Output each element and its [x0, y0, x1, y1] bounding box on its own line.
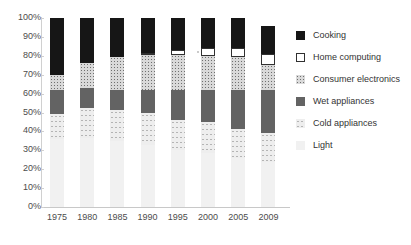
- legend-swatch-wetappliances-icon: [296, 97, 305, 106]
- legend-item-homecomputing: Home computing: [296, 46, 400, 68]
- y-axis-tick-label: 0%: [5, 202, 41, 211]
- bar-segment-light: [261, 162, 275, 207]
- bar-segment-cooking: [231, 18, 245, 48]
- bar-segment-homecomputing: [141, 53, 155, 55]
- bar-segment-wetappliances: [231, 90, 245, 129]
- bar-segment-cooking: [141, 18, 155, 53]
- bar-segment-light: [110, 141, 124, 207]
- legend-label: Consumer electronics: [313, 74, 400, 84]
- legend-item-light: Light: [296, 134, 400, 156]
- bar-1995: [171, 18, 185, 207]
- x-axis-line: [41, 207, 290, 208]
- x-axis-tick-label: 1985: [100, 212, 134, 223]
- stacked-bar-chart: 0%10%20%30%40%50%60%70%80%90%100% 197519…: [0, 0, 411, 245]
- bar-segment-consumerelectronics: [261, 65, 275, 90]
- bar-segment-coldappliances: [80, 108, 94, 138]
- legend-swatch-homecomputing-icon: [296, 53, 305, 62]
- legend-item-coldappliances: Cold appliances: [296, 112, 400, 134]
- legend-label: Wet appliances: [313, 96, 374, 106]
- y-axis-tick-mark: [41, 150, 44, 151]
- bar-segment-wetappliances: [50, 90, 64, 115]
- x-axis-tick-label: 1980: [70, 212, 104, 223]
- bar-segment-coldappliances: [171, 120, 185, 150]
- bar-segment-cooking: [80, 18, 94, 63]
- bar-segment-wetappliances: [80, 88, 94, 108]
- bar-segment-cooking: [50, 18, 64, 75]
- bar-segment-cooking: [261, 26, 275, 54]
- y-axis: 0%10%20%30%40%50%60%70%80%90%100%: [0, 0, 41, 245]
- legend-item-cooking: Cooking: [296, 24, 400, 46]
- legend-label: Home computing: [313, 52, 381, 62]
- bar-segment-light: [50, 139, 64, 207]
- bar-segment-homecomputing: [261, 54, 275, 65]
- bar-1990: [141, 18, 155, 207]
- y-axis-tick-label: 80%: [5, 51, 41, 60]
- bar-segment-homecomputing: [231, 48, 245, 57]
- bar-segment-consumerelectronics: [80, 63, 94, 88]
- y-axis-tick-label: 10%: [5, 183, 41, 192]
- bar-1985: [110, 18, 124, 207]
- y-axis-tick-mark: [41, 18, 44, 19]
- chart-legend: CookingHome computingConsumer electronic…: [296, 24, 400, 156]
- plot-area: [41, 18, 289, 207]
- bar-segment-cooking: [110, 18, 124, 57]
- stray-speck-artifact: [197, 51, 199, 53]
- bar-segment-consumerelectronics: [110, 57, 124, 90]
- y-axis-tick-mark: [41, 75, 44, 76]
- y-axis-tick-mark: [41, 131, 44, 132]
- y-axis-tick-mark: [41, 207, 44, 208]
- legend-label: Cold appliances: [313, 118, 377, 128]
- y-axis-tick-label: 20%: [5, 164, 41, 173]
- bar-segment-wetappliances: [261, 90, 275, 133]
- y-axis-tick-mark: [41, 169, 44, 170]
- x-axis-tick-label: 1975: [40, 212, 74, 223]
- bar-2005: [231, 18, 245, 207]
- y-axis-tick-label: 50%: [5, 108, 41, 117]
- y-axis-tick-mark: [41, 94, 44, 95]
- bar-segment-light: [171, 150, 185, 207]
- legend-swatch-consumerelectronics-icon: [296, 75, 305, 84]
- y-axis-tick-label: 90%: [5, 32, 41, 41]
- bar-segment-coldappliances: [261, 133, 275, 161]
- bar-segment-coldappliances: [110, 110, 124, 141]
- bar-2009: [261, 18, 275, 207]
- bar-segment-coldappliances: [231, 129, 245, 158]
- bar-segment-consumerelectronics: [201, 56, 215, 90]
- x-axis-tick-label: 1990: [131, 212, 165, 223]
- y-axis-tick-label: 60%: [5, 89, 41, 98]
- bar-segment-light: [80, 138, 94, 207]
- bar-segment-wetappliances: [201, 90, 215, 122]
- bar-segment-wetappliances: [171, 90, 185, 120]
- bar-segment-wetappliances: [110, 90, 124, 110]
- y-axis-tick-mark: [41, 56, 44, 57]
- legend-swatch-cooking-icon: [296, 31, 305, 40]
- y-axis-tick-mark: [41, 37, 44, 38]
- legend-swatch-light-icon: [296, 141, 305, 150]
- legend-swatch-coldappliances-icon: [296, 119, 305, 128]
- y-axis-tick-mark: [41, 188, 44, 189]
- x-axis-tick-label: 2005: [221, 212, 255, 223]
- y-axis-tick-label: 70%: [5, 70, 41, 79]
- bar-segment-homecomputing: [171, 50, 185, 55]
- legend-item-wetappliances: Wet appliances: [296, 90, 400, 112]
- bar-segment-consumerelectronics: [171, 55, 185, 90]
- bar-segment-consumerelectronics: [50, 75, 64, 90]
- bar-segment-wetappliances: [141, 90, 155, 114]
- bar-segment-coldappliances: [50, 114, 64, 139]
- y-axis-tick-label: 40%: [5, 126, 41, 135]
- bar-segment-light: [201, 153, 215, 207]
- legend-label: Light: [313, 140, 333, 150]
- bar-1975: [50, 18, 64, 207]
- bar-segment-light: [141, 145, 155, 207]
- x-axis-tick-label: 2000: [191, 212, 225, 223]
- x-axis-tick-label: 2009: [251, 212, 285, 223]
- x-axis-tick-label: 1995: [161, 212, 195, 223]
- bar-segment-consumerelectronics: [231, 57, 245, 90]
- bar-segment-coldappliances: [201, 122, 215, 153]
- y-axis-tick-label: 30%: [5, 145, 41, 154]
- bar-1980: [80, 18, 94, 207]
- y-axis-tick-label: 100%: [5, 13, 41, 22]
- legend-label: Cooking: [313, 30, 346, 40]
- bar-segment-consumerelectronics: [141, 55, 155, 90]
- bar-segment-coldappliances: [141, 113, 155, 144]
